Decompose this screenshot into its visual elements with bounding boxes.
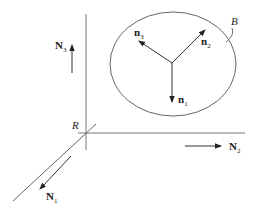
N2-label: N2 — [229, 140, 241, 155]
reference-frame-diagram: R N3 N2 N1 B n1 n2 n3 — [0, 0, 255, 212]
N1-label: N1 — [46, 190, 58, 205]
body-B-label: B — [231, 15, 238, 27]
n3-arrow-icon — [139, 41, 172, 63]
n1-label: n1 — [178, 93, 188, 108]
origin-label-R: R — [71, 119, 79, 131]
body-B-ellipse — [110, 12, 236, 116]
N3-label: N3 — [55, 39, 67, 54]
n3-label: n3 — [134, 26, 144, 41]
diagonal-axis-line — [13, 124, 96, 201]
n2-label: n2 — [201, 35, 211, 50]
